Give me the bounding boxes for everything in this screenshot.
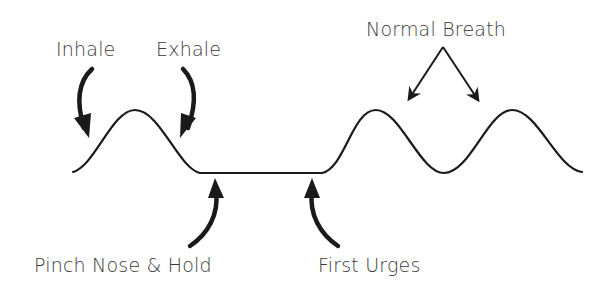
exhale-arrow-icon (180, 69, 196, 138)
breath-waveform (73, 110, 582, 173)
pinch-nose-arrow-icon (190, 178, 224, 246)
normal-breath-arrows-icon (409, 47, 478, 100)
inhale-label: Inhale (56, 40, 116, 59)
exhale-label: Exhale (156, 40, 221, 59)
first-urges-arrow-icon (304, 178, 338, 246)
first-urges-label: First Urges (318, 256, 421, 275)
inhale-arrow-icon (74, 69, 92, 138)
pinch-nose-hold-label: Pinch Nose & Hold (34, 256, 212, 275)
breathing-diagram: Inhale Exhale Normal Breath Pinch Nose &… (0, 0, 616, 303)
normal-breath-label: Normal Breath (366, 20, 506, 39)
